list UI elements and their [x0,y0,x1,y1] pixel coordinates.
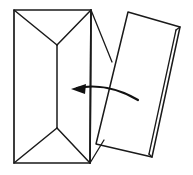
folded-card-group [96,12,180,157]
folded-card-face [96,12,180,157]
illustration-canvas: Envelope and folded card insertion diagr… [0,0,193,175]
envelope-corner-spur-top [91,10,112,62]
envelope-card-diagram: Envelope and folded card insertion diagr… [0,0,193,175]
